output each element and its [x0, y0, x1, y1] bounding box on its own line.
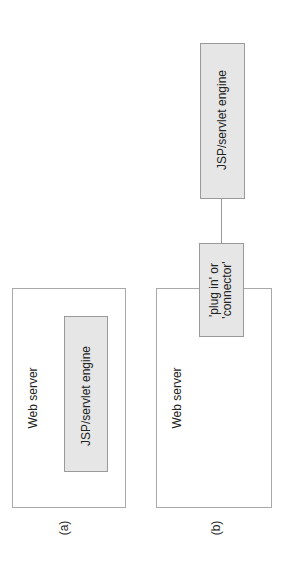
plugin-label-line2: 'connector': [221, 261, 234, 318]
caption-b: (b): [210, 521, 223, 536]
engine-label-b: JSP/servlet engine: [216, 70, 229, 170]
caption-a: (a): [58, 521, 71, 536]
web-server-label-a: Web server: [27, 367, 40, 428]
engine-label-a: JSP/servlet engine: [80, 346, 93, 446]
plugin-connector-label: 'plug in' or 'connector': [208, 261, 234, 318]
web-server-label-b: Web server: [171, 367, 184, 428]
connector-line: [221, 198, 222, 243]
